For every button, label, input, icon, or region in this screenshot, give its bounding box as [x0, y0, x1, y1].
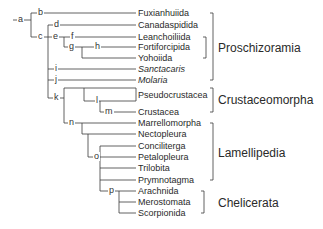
taxon-molaria: Molaria	[138, 75, 168, 85]
taxon-fortiforcipida: Fortiforcipida	[138, 42, 190, 52]
taxon-scorpionida: Scorpionida	[138, 208, 186, 218]
node-j: j	[54, 75, 58, 84]
taxon-petalopleura: Petalopleura	[138, 152, 189, 162]
taxon-nectopleura: Nectopleura	[138, 129, 187, 139]
taxon-canadaspidida: Canadaspidida	[138, 20, 198, 30]
node-d: d	[53, 20, 60, 29]
node-f: f	[70, 32, 75, 41]
node-k: k	[53, 93, 60, 102]
taxon-sanctacaris: Sanctacaris	[138, 64, 185, 74]
node-a: a	[17, 15, 24, 24]
taxon-fuxianhuiida: Fuxianhuiida	[138, 8, 189, 18]
taxon-yohoiida: Yohoiida	[138, 53, 172, 63]
node-e: e	[52, 32, 59, 41]
taxon-prymnotagma: Prymnotagma	[138, 175, 194, 185]
node-l: l	[95, 96, 99, 105]
node-g: g	[68, 42, 75, 51]
node-c: c	[37, 32, 44, 41]
taxon-marrellomorpha: Marrellomorpha	[138, 118, 201, 128]
group-proschizoramia: Proschizoramia	[218, 41, 301, 55]
node-b: b	[37, 8, 44, 17]
node-h: h	[94, 42, 101, 51]
node-i: i	[54, 64, 58, 73]
node-p: p	[108, 186, 115, 195]
taxon-crustacea: Crustacea	[138, 107, 179, 117]
node-o: o	[93, 152, 100, 161]
taxon-merostomata: Merostomata	[138, 197, 191, 207]
node-m: m	[104, 107, 114, 116]
node-n: n	[68, 118, 75, 127]
group-chelicerata: Chelicerata	[218, 196, 279, 210]
taxon-trilobita: Trilobita	[138, 163, 170, 173]
taxon-conciliterga: Conciliterga	[138, 141, 186, 151]
group-crustaceomorpha: Crustaceomorpha	[218, 93, 313, 107]
group-lamellipedia: Lamellipedia	[218, 146, 285, 160]
taxon-arachnida: Arachnida	[138, 186, 179, 196]
taxon-leanchoiliida: Leanchoiliida	[138, 32, 191, 42]
taxon-pseudocrustacea: Pseudocrustacea	[138, 90, 208, 100]
